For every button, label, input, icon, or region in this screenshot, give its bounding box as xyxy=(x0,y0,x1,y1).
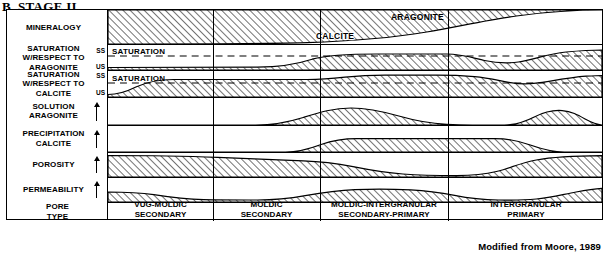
row-label-text: POROSITY xyxy=(28,160,86,170)
saturation-label-calcite: SATURATION xyxy=(112,74,165,83)
pore-type-label: VUG-MOLDIC SECONDARY xyxy=(134,200,187,220)
zone-divider-1 xyxy=(213,10,214,221)
series-saturation-aragonite xyxy=(108,50,602,70)
row-label-saturation-aragonite: SATURATION W/RESPECT TO ARAGONITE xyxy=(7,45,108,71)
row-label-text: PORE TYPE xyxy=(42,202,73,221)
row-label-text: PERMEABILITY xyxy=(19,185,96,195)
zone-divider-3 xyxy=(448,10,449,221)
band-porosity-svg xyxy=(108,153,602,177)
band-solution-aragonite xyxy=(108,98,602,125)
band-precipitation-calcite xyxy=(108,126,602,152)
row-label-text: SATURATION W/RESPECT TO ARAGONITE xyxy=(19,44,97,73)
increase-arrow-icon-precipitation-calcite xyxy=(92,130,101,148)
band-mineralogy xyxy=(108,10,602,44)
mineralogy-calcite-label: CALCITE xyxy=(316,31,354,41)
mineralogy-aragonite-label: ARAGONITE xyxy=(391,12,444,22)
us-marker-aragonite: US xyxy=(96,63,105,70)
figure-root: B. STAGE II MINERALOGY SATURATION W/RESP… xyxy=(0,0,605,253)
row-label-mineralogy: MINERALOGY xyxy=(7,10,108,45)
band-precipitation-calcite-svg xyxy=(108,126,602,152)
saturation-label-aragonite: SATURATION xyxy=(112,47,165,56)
row-label-text: MINERALOGY xyxy=(22,23,93,33)
increase-arrow-icon-solution-aragonite xyxy=(92,102,101,121)
ss-marker-calcite: SS xyxy=(96,72,105,79)
row-label-column: MINERALOGY SATURATION W/RESPECT TO ARAGO… xyxy=(7,10,108,219)
band-permeability xyxy=(108,178,602,202)
band-saturation-aragonite-svg xyxy=(108,45,602,70)
zone-divider-2 xyxy=(320,10,321,221)
pore-type-cell-4: INTERGRANULAR PRIMARY xyxy=(448,200,604,219)
ss-marker-aragonite: SS xyxy=(96,47,105,54)
band-saturation-aragonite xyxy=(108,45,602,70)
row-label-text: PRECIPITATION CALCITE xyxy=(19,129,97,148)
band-porosity xyxy=(108,153,602,177)
plot-area: CALCITE ARAGONITE SATURATION SATURATION xyxy=(108,10,602,219)
series-porosity xyxy=(108,156,602,178)
chart-frame: MINERALOGY SATURATION W/RESPECT TO ARAGO… xyxy=(6,9,603,220)
band-permeability-svg xyxy=(108,178,602,202)
us-marker-calcite: US xyxy=(96,89,105,96)
source-credit: Modified from Moore, 1989 xyxy=(478,241,601,252)
series-saturation-calcite xyxy=(108,75,602,97)
series-mineralogy-calcite xyxy=(108,10,602,44)
pore-type-label: MOLDIC SECONDARY xyxy=(241,200,293,220)
pore-type-cell-1: VUG-MOLDIC SECONDARY xyxy=(108,200,213,219)
row-label-text: SOLUTION ARAGONITE xyxy=(25,102,90,121)
row-label-saturation-calcite: SATURATION W/RESPECT TO CALCITE xyxy=(7,71,108,97)
band-solution-aragonite-svg xyxy=(108,98,602,125)
series-solution-aragonite xyxy=(108,108,602,125)
pore-type-label: MOLDIC-INTERGRANULAR SECONDARY-PRIMARY xyxy=(331,200,437,220)
increase-arrow-icon-permeability xyxy=(92,181,101,198)
pore-type-cell-3: MOLDIC-INTERGRANULAR SECONDARY-PRIMARY xyxy=(320,200,448,219)
pore-type-label: INTERGRANULAR PRIMARY xyxy=(490,200,561,220)
pore-type-cell-2: MOLDIC SECONDARY xyxy=(213,200,320,219)
row-label-text: SATURATION W/RESPECT TO CALCITE xyxy=(19,70,97,99)
increase-arrow-icon-porosity xyxy=(92,156,101,173)
series-precipitation-calcite xyxy=(108,139,602,152)
row-label-pore-type: PORE TYPE xyxy=(7,202,108,221)
band-saturation-calcite xyxy=(108,71,602,97)
band-mineralogy-svg xyxy=(108,10,602,44)
band-saturation-calcite-svg xyxy=(108,71,602,97)
